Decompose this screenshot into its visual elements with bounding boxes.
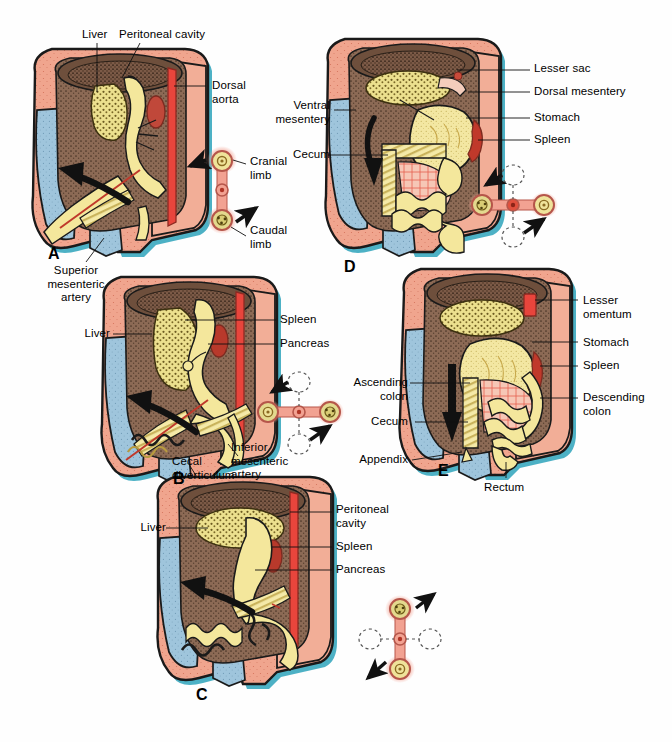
label-caudal-limb: Caudal limb [250,224,287,251]
label-spleen-d: Spleen [534,133,570,147]
label-liver-a: Liver [82,28,107,42]
label-appendix-e: Appendix [330,453,408,467]
label-stomach-e: Stomach [583,336,629,350]
panel-e-artwork [399,269,576,480]
label-pancreas-b: Pancreas [280,337,329,351]
label-inferior-mesenteric-artery-b: Inferior mesenteric artery [231,441,288,482]
label-rectum-e: Rectum [484,481,524,495]
panel-a-artwork [32,49,212,257]
panel-letter-e: E [438,462,449,480]
label-liver-b: Liver [46,327,110,341]
label-peritoneal-cavity-c: Peritoneal cavity [336,503,389,530]
panel-c-artwork [157,477,337,689]
panel-letter-b: B [173,470,185,488]
panel-d-artwork [325,39,505,257]
label-pancreas-c: Pancreas [336,563,385,577]
label-cecum-d: Cecum [258,148,330,162]
label-spleen-e: Spleen [583,359,619,373]
label-stomach-d: Stomach [534,111,580,125]
label-lesser-sac-d: Lesser sac [534,62,591,76]
panel-letter-c: C [196,686,208,704]
rotation-inset-c-artwork [359,594,441,683]
label-spleen-c: Spleen [336,540,372,554]
label-descending-colon-e: Descending colon [583,391,645,418]
panel-letter-a: A [48,245,60,263]
anatomical-figure: Liver Peritoneal cavity Dorsal aorta Sup… [0,0,672,742]
label-spleen-b: Spleen [280,313,316,327]
label-peritoneal-cavity-a: Peritoneal cavity [119,28,205,42]
label-liver-c: Liver [102,521,166,535]
label-superior-mesenteric-artery-a: Superior mesenteric artery [22,264,130,305]
label-dorsal-aorta-a: Dorsal aorta [212,79,246,106]
label-ascending-colon-e: Ascending colon [330,376,408,403]
panel-letter-d: D [344,258,356,276]
label-ventral-mesentery-d: Ventral mesentery [258,99,330,126]
label-dorsal-mesentery-d: Dorsal mesentery [534,85,626,99]
label-cecum-e: Cecum [330,415,408,429]
label-lesser-omentum-e: Lesser omentum [583,294,632,321]
